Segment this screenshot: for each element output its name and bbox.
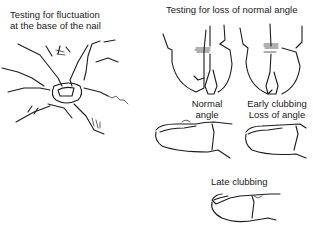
normal-angle-front-drawing <box>163 25 232 94</box>
late-clubbing-side-drawing <box>212 194 280 222</box>
normal-angle-side-drawing <box>156 120 232 158</box>
early-clubbing-side-drawing <box>246 124 306 158</box>
early-clubbing-front-drawing <box>240 24 302 94</box>
illustration-canvas <box>0 0 313 228</box>
fluctuation-drawing <box>2 40 128 134</box>
